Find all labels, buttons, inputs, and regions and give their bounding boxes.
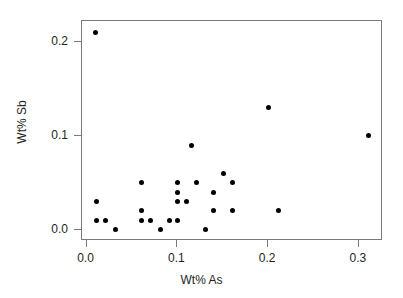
data-point [211,208,216,213]
data-point [366,133,371,138]
x-tick-label: 0.1 [156,252,196,264]
data-point [230,208,235,213]
data-point [103,218,108,223]
data-point [113,227,118,232]
data-point [276,208,281,213]
x-axis-label: Wt% As [0,273,403,287]
data-point [203,227,208,232]
data-point [148,218,153,223]
y-tick-mark [74,229,81,230]
data-points-layer [82,21,381,239]
y-tick-label: 0.1 [28,129,68,141]
data-point [175,199,180,204]
y-axis-label: Wt% Sb [15,62,29,182]
data-point [266,105,271,110]
x-tick-label: 0.3 [338,252,378,264]
data-point [94,199,99,204]
data-point [194,180,199,185]
x-tick-mark [86,240,87,247]
data-point [93,30,98,35]
data-point [189,143,194,148]
data-point [158,227,163,232]
data-point [230,180,235,185]
x-tick-label: 0.0 [66,252,106,264]
x-tick-mark [358,240,359,247]
x-tick-mark [267,240,268,247]
data-point [167,218,172,223]
data-point [211,190,216,195]
y-tick-label: 0.2 [28,35,68,47]
data-point [175,190,180,195]
data-point [139,218,144,223]
x-tick-label: 0.2 [247,252,287,264]
data-point [175,180,180,185]
data-point [139,180,144,185]
data-point [175,218,180,223]
plot-area [81,20,382,240]
x-tick-mark [176,240,177,247]
y-tick-label: 0.0 [28,223,68,235]
data-point [139,208,144,213]
data-point [184,199,189,204]
scatter-plot-figure: Wt% Sb 0.00.10.2 0.00.10.20.3 Wt% As [0,0,403,298]
y-tick-mark [74,135,81,136]
y-tick-mark [74,41,81,42]
data-point [94,218,99,223]
data-point [221,171,226,176]
